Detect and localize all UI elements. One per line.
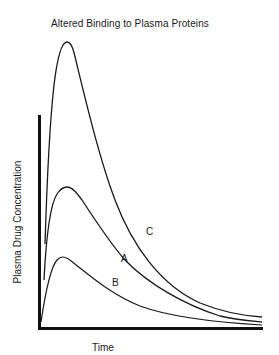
plot-area: C A B bbox=[0, 0, 279, 355]
curve-label-a: A bbox=[121, 253, 128, 264]
curve-label-b: B bbox=[112, 277, 119, 288]
curve-c bbox=[45, 42, 262, 317]
x-axis-label: Time bbox=[92, 342, 114, 353]
curve-label-c: C bbox=[146, 226, 153, 237]
y-axis-label: Plasma Drug Concentration bbox=[12, 161, 23, 284]
curve-a bbox=[44, 187, 262, 322]
curve-b bbox=[41, 257, 262, 325]
